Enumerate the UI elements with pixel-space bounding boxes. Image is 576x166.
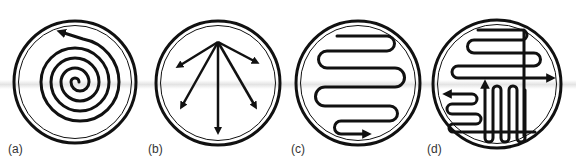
serpentine-streak bbox=[316, 36, 405, 134]
panel-c-label: (c) bbox=[291, 142, 305, 156]
panel-b-label: (b) bbox=[148, 142, 163, 156]
panel-b-dish bbox=[156, 21, 280, 145]
streak-arrow bbox=[182, 42, 218, 106]
panel-a-dish bbox=[14, 21, 136, 143]
panel-d-dish bbox=[433, 20, 561, 148]
panel-d-label: (d) bbox=[427, 142, 442, 156]
streak-plate-diagrams bbox=[0, 0, 576, 166]
panel-c-dish bbox=[296, 21, 420, 145]
streak-top bbox=[452, 30, 551, 78]
streak-left bbox=[447, 94, 535, 132]
panel-a-label: (a) bbox=[8, 142, 23, 156]
spiral-streak bbox=[41, 32, 119, 121]
